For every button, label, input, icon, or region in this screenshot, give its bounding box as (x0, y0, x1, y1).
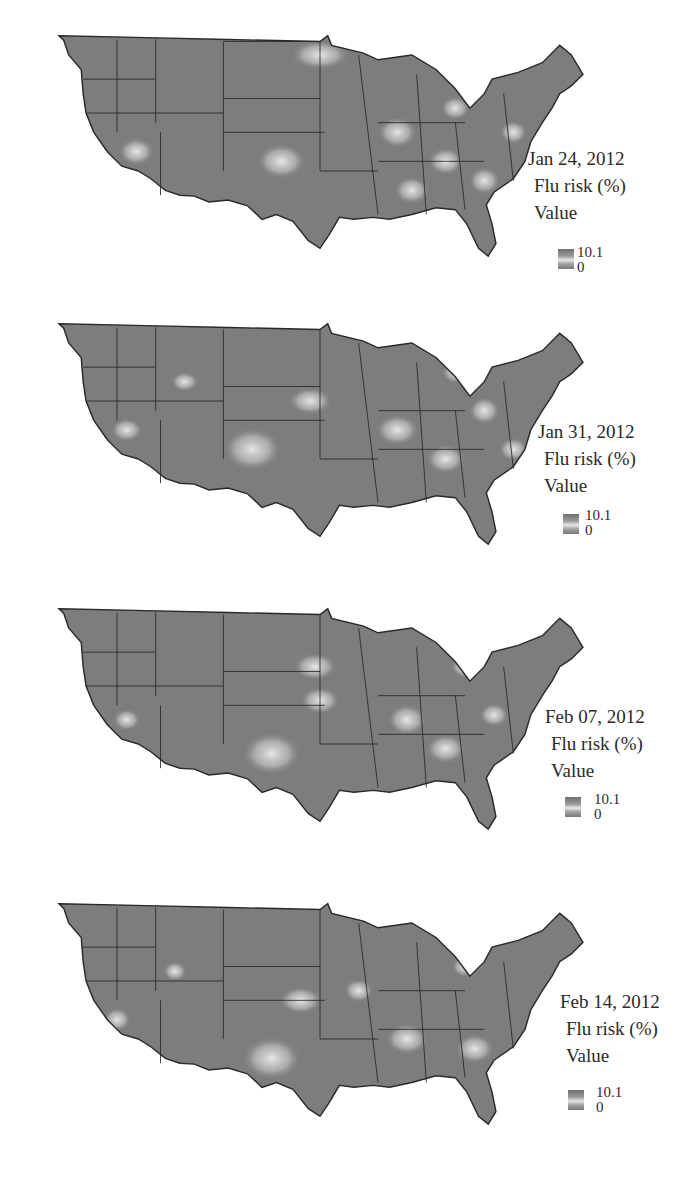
legend: Feb 07, 2012 Flu risk (%) Value (545, 703, 645, 784)
us-flu-map (30, 300, 610, 560)
legend-subtitle: Value (560, 1042, 660, 1069)
map-panel-2: Jan 31, 2012 Flu risk (%) Value 10.1 0 (0, 300, 693, 590)
scale-min: 0 (585, 523, 611, 538)
scale-max: 10.1 (596, 1085, 622, 1100)
legend-subtitle: Value (538, 472, 636, 499)
color-scale (565, 795, 587, 817)
legend-date: Jan 31, 2012 (538, 418, 636, 445)
map-panel-1: Jan 24, 2012 Flu risk (%) Value 10.1 0 (0, 12, 693, 302)
legend-title: Flu risk (%) (560, 1015, 660, 1042)
legend-subtitle: Value (528, 199, 626, 226)
scale-max: 10.1 (585, 508, 611, 523)
color-scale (563, 512, 585, 534)
map-panel-4: Feb 14, 2012 Flu risk (%) Value 10.1 0 (0, 880, 693, 1170)
legend-title: Flu risk (%) (528, 172, 626, 199)
legend: Jan 31, 2012 Flu risk (%) Value (538, 418, 636, 499)
legend: Feb 14, 2012 Flu risk (%) Value (560, 988, 660, 1069)
color-scale (568, 1088, 590, 1110)
scale-max: 10.1 (577, 245, 603, 260)
scale-max: 10.1 (594, 792, 620, 807)
scale-min: 0 (594, 807, 620, 822)
legend-date: Feb 07, 2012 (545, 703, 645, 730)
map-panel-3: Feb 07, 2012 Flu risk (%) Value 10.1 0 (0, 585, 693, 875)
legend-date: Jan 24, 2012 (528, 145, 626, 172)
scale-min: 0 (596, 1100, 622, 1115)
us-flu-map (30, 585, 610, 845)
legend-title: Flu risk (%) (538, 445, 636, 472)
legend-subtitle: Value (545, 757, 645, 784)
legend-date: Feb 14, 2012 (560, 988, 660, 1015)
scale-labels: 10.1 0 (577, 245, 603, 275)
us-flu-map (30, 12, 610, 272)
scale-labels: 10.1 0 (594, 792, 620, 822)
legend: Jan 24, 2012 Flu risk (%) Value (528, 145, 626, 226)
scale-labels: 10.1 0 (585, 508, 611, 538)
scale-min: 0 (577, 260, 603, 275)
legend-title: Flu risk (%) (545, 730, 645, 757)
scale-labels: 10.1 0 (596, 1085, 622, 1115)
us-flu-map (30, 880, 610, 1140)
